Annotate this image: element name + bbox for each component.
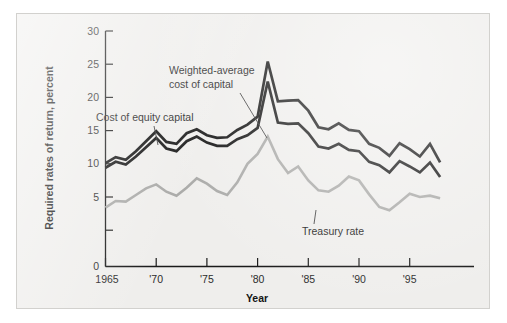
leader-line-treasury bbox=[314, 210, 316, 224]
y-tick-label-25: 25 bbox=[87, 58, 99, 70]
annotation-label-wacc-line2: cost of capital bbox=[169, 78, 233, 90]
annotation-label-equity: Cost of equity capital bbox=[96, 111, 193, 123]
y-axis-ticks: 30 25 20 15 10 5 0 bbox=[87, 25, 113, 273]
x-tick-label-1970: '70 bbox=[149, 273, 163, 285]
x-axis-title: Year bbox=[246, 292, 268, 304]
annotation-weighted-average-cost-of-capital: Weighted-average cost of capital bbox=[169, 64, 267, 138]
x-tick-label-1995: '95 bbox=[403, 273, 417, 285]
x-axis-ticks: 1965 '70 '75 '80 '85 '90 '95 bbox=[95, 258, 416, 285]
y-tick-label-0: 0 bbox=[93, 260, 99, 272]
chart-plate: 30 25 20 15 10 5 0 1965 '70 '75 '8 bbox=[16, 13, 490, 309]
annotation-treasury-rate: Treasury rate bbox=[302, 210, 364, 237]
x-tick-label-1965: 1965 bbox=[95, 273, 119, 285]
y-tick-label-15: 15 bbox=[87, 124, 99, 136]
x-tick-label-1975: '75 bbox=[200, 273, 214, 285]
annotation-label-wacc-line1: Weighted-average bbox=[169, 64, 255, 76]
y-axis-title: Required rates of return, percent bbox=[43, 66, 55, 230]
line-chart: 30 25 20 15 10 5 0 1965 '70 '75 '8 bbox=[17, 14, 491, 310]
series-line-weighted-average-cost-of-capital bbox=[106, 81, 441, 177]
y-tick-label-10: 10 bbox=[87, 157, 99, 169]
x-tick-label-1980: '80 bbox=[251, 273, 265, 285]
axes-group bbox=[106, 31, 475, 267]
y-tick-label-5: 5 bbox=[93, 191, 99, 203]
annotation-label-treasury: Treasury rate bbox=[302, 225, 364, 237]
y-tick-label-30: 30 bbox=[87, 25, 99, 37]
figure-container: 30 25 20 15 10 5 0 1965 '70 '75 '8 bbox=[0, 0, 507, 323]
x-tick-label-1990: '90 bbox=[352, 273, 366, 285]
y-tick-label-20: 20 bbox=[87, 91, 99, 103]
leader-line-equity bbox=[154, 126, 158, 145]
x-tick-label-1985: '85 bbox=[301, 273, 315, 285]
